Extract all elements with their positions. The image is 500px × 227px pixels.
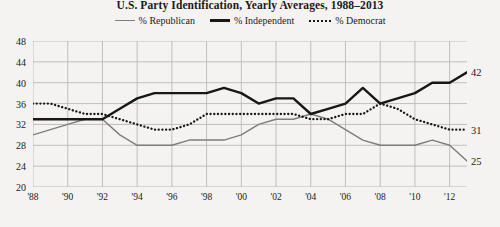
x-tick-label: '00 xyxy=(236,192,247,202)
legend-item-independent: % Independent xyxy=(210,15,294,26)
legend-swatch-independent-icon xyxy=(210,19,230,22)
legend-swatch-democrat-icon xyxy=(309,20,331,22)
legend-label-democrat: % Democrat xyxy=(335,15,385,26)
end-label-democrat: 31 xyxy=(471,124,482,135)
x-tick-label: '90 xyxy=(62,192,73,202)
y-tick-label: 44 xyxy=(16,56,26,67)
end-label-independent: 42 xyxy=(471,67,482,78)
y-tick-label: 40 xyxy=(16,77,26,88)
y-tick-label: 28 xyxy=(16,140,26,151)
y-tick-label: 48 xyxy=(16,36,26,47)
x-tick-label: '10 xyxy=(409,192,420,202)
x-tick-label: '02 xyxy=(270,192,281,202)
x-tick-label: '08 xyxy=(375,192,386,202)
y-tick-label: 36 xyxy=(16,98,26,109)
x-tick-label: '04 xyxy=(305,192,316,202)
chart-title: U.S. Party Identification, Yearly Averag… xyxy=(0,0,500,11)
x-tick-label: '96 xyxy=(166,192,177,202)
x-tick-label: '92 xyxy=(97,192,108,202)
chart-svg xyxy=(33,41,467,187)
legend-label-independent: % Independent xyxy=(234,15,294,26)
series-line-independent xyxy=(33,72,467,119)
chart-container: U.S. Party Identification, Yearly Averag… xyxy=(0,0,500,227)
x-tick-label: '12 xyxy=(444,192,455,202)
y-tick-label: 32 xyxy=(16,119,26,130)
legend-swatch-republican-icon xyxy=(115,20,135,21)
end-label-republican: 25 xyxy=(471,155,482,166)
chart-legend: % Republican % Independent % Democrat xyxy=(0,15,500,26)
legend-item-republican: % Republican xyxy=(115,15,195,26)
legend-item-democrat: % Democrat xyxy=(309,15,385,26)
x-tick-label: '06 xyxy=(340,192,351,202)
x-tick-label: '98 xyxy=(201,192,212,202)
y-tick-label: 24 xyxy=(16,161,26,172)
series-line-republican xyxy=(33,114,467,161)
y-tick-label: 20 xyxy=(16,182,26,193)
series-line-democrat xyxy=(33,104,467,130)
x-tick-label: '94 xyxy=(132,192,143,202)
y-axis-labels: 2024283236404448 xyxy=(0,41,30,187)
plot-area xyxy=(33,41,467,187)
x-tick-label: '88 xyxy=(27,192,38,202)
legend-label-republican: % Republican xyxy=(139,15,195,26)
x-axis-labels: '88'90'92'94'96'98'00'02'04'06'08'10'12 xyxy=(33,192,467,208)
